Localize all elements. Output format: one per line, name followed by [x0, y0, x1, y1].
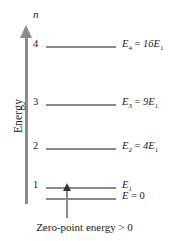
- quantum-number-header: n: [33, 8, 39, 20]
- energy-axis-shaft: [25, 36, 28, 204]
- level-4-label: E4 = 16E1: [122, 38, 164, 49]
- level-4-quantum-number: 4: [33, 38, 38, 49]
- level-2-quantum-number: 2: [33, 140, 38, 151]
- level-1-label: E1: [122, 179, 132, 190]
- level-3-label: E3 = 9E1: [122, 96, 158, 107]
- level-2-line: [46, 148, 116, 150]
- level-3-line: [46, 104, 116, 106]
- level-1-quantum-number: 1: [33, 179, 38, 190]
- zero-point-energy-arrow-shaft: [66, 190, 68, 218]
- level-1-line: [46, 187, 116, 189]
- zero-energy-line: [46, 198, 116, 200]
- zero-point-energy-caption: Zero-point energy > 0: [0, 221, 169, 233]
- zero-point-energy-arrowhead-icon: [63, 183, 71, 191]
- level-2-label: E2 = 4E1: [122, 140, 158, 151]
- energy-axis-title: Energy: [12, 86, 24, 146]
- zero-energy-label: E = 0: [122, 190, 145, 201]
- level-4-line: [46, 46, 116, 48]
- level-3-quantum-number: 3: [33, 96, 38, 107]
- energy-level-diagram: Energy n 4 E4 = 16E1 3 E3 = 9E1 2 E2 = 4…: [0, 0, 169, 241]
